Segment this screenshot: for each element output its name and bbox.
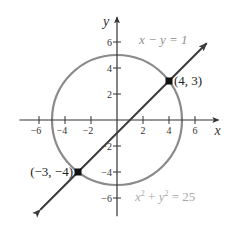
intersection-point-marker — [75, 169, 82, 176]
intersection-point-label: (4, 3) — [174, 73, 202, 88]
x-tick-label: −4 — [57, 125, 68, 136]
y-tick-label: 6 — [107, 37, 112, 48]
x-tick-label: −2 — [83, 125, 94, 136]
line-equation-label: x − y = 1 — [138, 32, 188, 47]
coordinate-plane: −6−4−2246 −6−4−2246 x y (4, 3)(−3, −4) x… — [0, 0, 232, 231]
intersection-point-marker — [166, 78, 173, 85]
y-tick-label: 2 — [107, 89, 112, 100]
circle-equation-label: x2 + y2 = 25 — [134, 189, 195, 204]
intersection-point-label: (−3, −4) — [30, 164, 73, 179]
y-axis-label: y — [101, 14, 110, 29]
x-ticks: −6−4−2246 — [31, 116, 198, 136]
x-tick-label: 2 — [141, 125, 146, 136]
x-tick-label: 4 — [167, 125, 172, 136]
x-tick-label: −6 — [31, 125, 42, 136]
y-tick-label: −6 — [101, 193, 112, 204]
x-tick-label: 6 — [193, 125, 198, 136]
eq-rest: = 25 — [168, 189, 195, 204]
eq-plus: + — [145, 189, 159, 204]
y-tick-label: −4 — [101, 167, 112, 178]
y-tick-label: 4 — [107, 63, 112, 74]
x-axis-label: x — [213, 123, 221, 138]
